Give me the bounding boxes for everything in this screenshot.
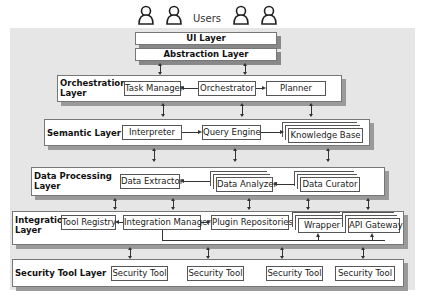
orchestrator: Orchestrator (198, 81, 256, 96)
semantic-layer: Semantic Layer Interpreter Query Engine … (44, 119, 370, 146)
connector-arrow (154, 149, 155, 161)
layer-title: Security Tool Layer (15, 268, 106, 278)
layer-title: OrchestrationLayer (60, 78, 126, 98)
integration-manager: Integration Manager (123, 215, 201, 230)
connector-arrow (115, 199, 116, 209)
connector-arrow (245, 64, 246, 74)
connector-arrow (235, 149, 236, 161)
planner: Planner (266, 81, 326, 96)
connector-arrow (173, 199, 174, 209)
security-tool: Security Tool (111, 266, 168, 281)
user-icon (165, 5, 183, 25)
interpreter: Interpreter (122, 125, 182, 140)
security-tool: Security Tool (266, 266, 323, 281)
data-curator: Data Curator (300, 177, 360, 192)
abstraction-layer: Abstraction Layer (135, 48, 277, 61)
user-icon (232, 5, 250, 25)
orchestration-layer: OrchestrationLayer Task Manager Orchestr… (57, 75, 342, 102)
ui-layer: UI Layer (135, 32, 277, 45)
layer-title: Semantic Layer (47, 128, 121, 138)
connector-arrow (368, 199, 369, 209)
connector-arrow (311, 104, 312, 116)
integration-layer: IntegrationLayer Tool Registry Integrati… (12, 211, 404, 245)
connector-arrow (208, 248, 209, 258)
security-tool-layer: Security Tool Layer Security Tool Securi… (12, 259, 404, 287)
user-icon (137, 5, 155, 25)
diagram-background (10, 28, 415, 290)
connector-arrow (249, 199, 250, 209)
layer-title: Data ProcessingLayer (34, 171, 112, 191)
data-processing-layer: Data ProcessingLayer Data Extractor Data… (31, 167, 385, 196)
connector-arrow (363, 248, 364, 258)
connector-arrow (242, 104, 243, 116)
connector-arrow (282, 248, 283, 258)
api-gateway: API Gateway (348, 218, 400, 233)
data-analyzer: Data Analyzer (216, 177, 273, 192)
data-extractor: Data Extractor (120, 174, 180, 189)
tool-registry: Tool Registry (61, 215, 116, 230)
connector-arrow (130, 248, 131, 258)
connector-arrow (308, 199, 309, 209)
knowledge-base: Knowledge Base (288, 128, 363, 143)
task-manager: Task Manager (124, 81, 181, 96)
users-label: Users (193, 13, 221, 24)
connector-arrow (163, 104, 164, 116)
security-tool: Security Tool (187, 266, 244, 281)
security-tool: Security Tool (335, 266, 395, 281)
query-engine: Query Engine (202, 125, 261, 140)
user-icon (260, 5, 278, 25)
wrapper: Wrapper (298, 218, 346, 233)
plugin-repositories: Plugin Repositories (211, 215, 289, 230)
connector-arrow (328, 149, 329, 161)
connector-arrow (160, 64, 161, 74)
